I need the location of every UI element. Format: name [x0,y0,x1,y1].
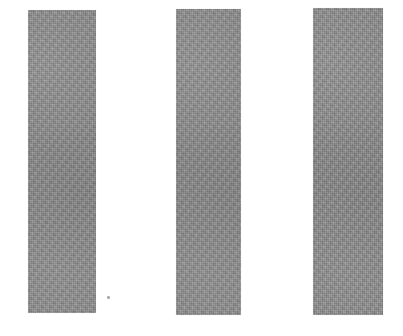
gray-bar-right [313,8,383,315]
gray-bar-middle [176,9,241,315]
gray-bar-left [28,10,96,313]
image-caption: Three gray vertical bars [0,0,1,1]
dust-speck-mark [107,296,110,299]
image-canvas: Three gray vertical bars [0,0,403,336]
